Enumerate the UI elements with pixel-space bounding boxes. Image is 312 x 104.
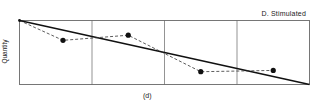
data-point [60, 38, 65, 43]
chart-title: D. Stimulated [261, 10, 306, 17]
y-axis-label: Quantity [1, 39, 8, 63]
panel-caption: (d) [143, 92, 152, 99]
data-point [198, 69, 203, 74]
data-point [18, 19, 21, 22]
observed-line [20, 21, 274, 72]
data-point [126, 33, 131, 38]
data-point [271, 68, 276, 73]
